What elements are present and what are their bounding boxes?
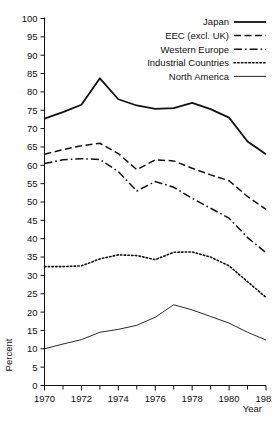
y-tick-label: 35 <box>27 251 38 262</box>
y-tick-label: 95 <box>27 31 38 42</box>
x-tick-label: 1970 <box>34 393 55 404</box>
y-tick-label: 45 <box>27 215 38 226</box>
y-tick-label: 25 <box>27 288 38 299</box>
y-tick-label: 85 <box>27 68 38 79</box>
y-tick-label: 5 <box>32 362 37 373</box>
y-tick-label: 40 <box>27 233 38 244</box>
series-line-western-europe <box>45 159 267 253</box>
y-tick-label: 15 <box>27 325 38 336</box>
x-axis-label-group: 1970197219741976197819801982 <box>34 393 272 404</box>
y-tick-label: 75 <box>27 105 38 116</box>
x-tick-label: 1972 <box>71 393 92 404</box>
legend-label-industrial-countries: Industrial Countries <box>147 57 229 68</box>
series-group <box>45 78 267 348</box>
legend-label-western-europe: Western Europe <box>161 44 229 55</box>
x-axis-tick-group <box>45 386 267 391</box>
series-line-eec-excl-uk <box>45 143 267 209</box>
x-tick-label: 1974 <box>108 393 129 404</box>
x-tick-label: 1982 <box>255 393 272 404</box>
y-tick-label: 100 <box>22 13 38 24</box>
legend-label-japan: Japan <box>203 16 229 27</box>
y-tick-label: 55 <box>27 178 38 189</box>
y-axis-tick-group <box>41 19 45 386</box>
y-axis-label-group: 0510152025303540455055606570758085909510… <box>22 13 38 391</box>
y-tick-label: 30 <box>27 270 38 281</box>
x-tick-label: 1980 <box>219 393 240 404</box>
chart-container: 0510152025303540455055606570758085909510… <box>0 0 272 432</box>
line-chart: 0510152025303540455055606570758085909510… <box>0 0 272 432</box>
legend-label-north-america: North America <box>169 71 230 82</box>
y-tick-label: 80 <box>27 86 38 97</box>
y-tick-label: 70 <box>27 123 38 134</box>
y-tick-label: 50 <box>27 196 38 207</box>
y-tick-label: 90 <box>27 50 38 61</box>
y-tick-label: 0 <box>32 380 37 391</box>
x-tick-label: 1976 <box>145 393 166 404</box>
series-line-japan <box>45 78 267 154</box>
series-line-north-america <box>45 305 267 349</box>
y-tick-label: 65 <box>27 141 38 152</box>
legend-label-eec-excl-uk: EEC (excl. UK) <box>165 30 229 41</box>
x-tick-label: 1978 <box>182 393 203 404</box>
y-tick-label: 60 <box>27 160 38 171</box>
x-axis-title: Year <box>243 403 262 414</box>
y-tick-label: 10 <box>27 343 38 354</box>
y-axis-title: Percent <box>3 338 14 371</box>
y-tick-label: 20 <box>27 307 38 318</box>
series-line-industrial-countries <box>45 252 267 298</box>
chart-legend: JapanEEC (excl. UK)Western EuropeIndustr… <box>147 16 266 81</box>
